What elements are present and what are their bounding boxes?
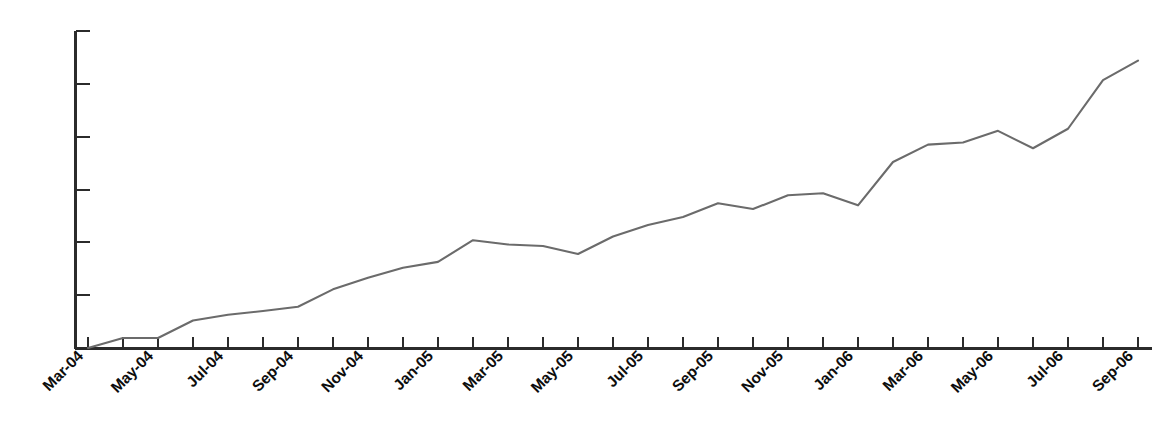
- y-axis: [76, 31, 90, 349]
- x-axis-tick-labels: Mar-04May-04Jul-04Sep-04Nov-04Jan-05Mar-…: [39, 347, 1136, 396]
- x-axis-tick-label: Jan-05: [390, 347, 437, 394]
- x-axis-tick-label: Jan-06: [810, 347, 857, 394]
- x-axis-tick-label: Nov-05: [738, 347, 786, 395]
- x-axis-tick-label: Mar-05: [459, 347, 506, 394]
- x-axis-tick-label: Mar-04: [39, 347, 86, 394]
- data-series-line: [88, 61, 1138, 348]
- x-axis-tick-label: May-04: [107, 347, 156, 396]
- series-group: [88, 61, 1138, 348]
- x-axis-tick-label: Sep-05: [669, 347, 717, 395]
- x-axis-tick-label: Jul-04: [183, 347, 227, 391]
- x-axis-tick-label: Sep-04: [249, 347, 297, 395]
- x-axis: [75, 337, 1152, 349]
- x-axis-tick-label: Jul-05: [603, 347, 647, 391]
- x-axis-tick-label: Mar-06: [879, 347, 926, 394]
- x-axis-tick-label: Nov-04: [318, 347, 366, 395]
- x-axis-tick-label: Sep-06: [1089, 347, 1137, 395]
- x-axis-tick-label: May-06: [947, 347, 996, 396]
- line-chart: Mar-04May-04Jul-04Sep-04Nov-04Jan-05Mar-…: [0, 0, 1175, 443]
- chart-canvas: Mar-04May-04Jul-04Sep-04Nov-04Jan-05Mar-…: [0, 0, 1175, 443]
- x-axis-tick-label: May-05: [527, 347, 576, 396]
- x-axis-ticks: [88, 337, 1138, 348]
- y-axis-ticks: [76, 31, 90, 295]
- x-axis-tick-label: Jul-06: [1023, 347, 1067, 391]
